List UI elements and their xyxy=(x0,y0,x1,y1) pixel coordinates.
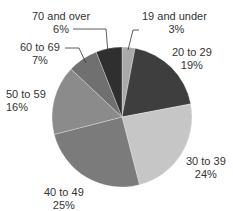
label-category: 20 to 29 xyxy=(172,46,212,59)
label-19-and-under: 19 and under 3% xyxy=(142,10,207,36)
label-60-to-69: 60 to 69 7% xyxy=(20,41,60,67)
label-percent: 3% xyxy=(142,23,207,36)
label-percent: 16% xyxy=(6,101,46,114)
label-40-to-49: 40 to 49 25% xyxy=(44,186,84,211)
label-category: 60 to 69 xyxy=(20,41,60,54)
label-30-to-39: 30 to 39 24% xyxy=(186,155,226,181)
label-50-to-59: 50 to 59 16% xyxy=(6,88,46,114)
leader-line-19-and-under xyxy=(128,30,139,50)
label-category: 50 to 59 xyxy=(6,88,46,101)
label-percent: 24% xyxy=(186,168,226,181)
label-percent: 19% xyxy=(172,59,212,72)
label-20-to-29: 20 to 29 19% xyxy=(172,46,212,72)
label-category: 70 and over xyxy=(32,10,90,23)
label-category: 40 to 49 xyxy=(44,186,84,199)
label-category: 30 to 39 xyxy=(186,155,226,168)
label-percent: 6% xyxy=(32,23,90,36)
pie-slices xyxy=(52,47,192,187)
label-category: 19 and under xyxy=(142,10,207,23)
label-70-and-over: 70 and over 6% xyxy=(32,10,90,36)
label-percent: 25% xyxy=(44,199,84,211)
label-percent: 7% xyxy=(20,54,60,67)
